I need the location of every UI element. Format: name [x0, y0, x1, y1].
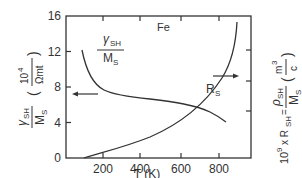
- y-tick-16: 16: [48, 9, 62, 23]
- svg-text:(: (: [279, 77, 295, 82]
- svg-text:): ): [25, 51, 41, 56]
- svg-text:): ): [279, 52, 295, 57]
- svg-text:γ: γ: [103, 32, 110, 46]
- right-axis-ticks: [246, 50, 251, 111]
- chart-canvas: 16 12 8 4 0 200 400 600 800 T (K) Fe γ S…: [0, 0, 302, 178]
- x-tick-600: 600: [171, 162, 191, 176]
- svg-text:m: m: [273, 66, 284, 74]
- svg-text:S: S: [113, 58, 118, 67]
- svg-text:SH: SH: [22, 108, 31, 119]
- y-tick-8: 8: [54, 80, 61, 94]
- svg-text:Ωmt: Ωmt: [34, 65, 45, 84]
- left-y-axis-label: γ SH M S ( 10 4 Ωmt ): [15, 51, 49, 128]
- svg-text:10: 10: [278, 152, 290, 164]
- svg-text:S: S: [294, 90, 302, 95]
- right-arrow-icon: [213, 74, 239, 79]
- svg-text:(: (: [25, 91, 41, 96]
- svg-text:9: 9: [275, 147, 284, 152]
- bottom-axis-ticks: [103, 153, 219, 158]
- svg-text:S: S: [40, 110, 49, 115]
- right-y-axis-label: 10 9 x R SH = ρ SH M S ( m 3 c ): [269, 52, 302, 164]
- svg-text:SH: SH: [284, 116, 293, 127]
- svg-text:x R: x R: [279, 130, 290, 145]
- gamma-curve-label: γ SH M S: [97, 32, 124, 67]
- svg-text:10: 10: [19, 72, 30, 84]
- svg-text:4: 4: [16, 67, 25, 72]
- svg-text:M: M: [33, 115, 47, 125]
- svg-text:3: 3: [270, 60, 279, 65]
- svg-text:ρ: ρ: [269, 99, 283, 107]
- svg-text:c: c: [288, 66, 299, 71]
- svg-text:S: S: [215, 89, 220, 98]
- y-tick-4: 4: [54, 116, 61, 130]
- x-tick-800: 800: [209, 162, 229, 176]
- svg-text:R: R: [206, 82, 215, 96]
- svg-text:M: M: [287, 95, 301, 105]
- svg-text:SH: SH: [110, 39, 121, 48]
- left-arrow-icon: [72, 92, 98, 97]
- svg-text:=: =: [279, 109, 290, 115]
- svg-text:γ: γ: [15, 119, 29, 126]
- x-tick-200: 200: [93, 162, 113, 176]
- svg-text:M: M: [103, 51, 113, 65]
- material-label: Fe: [157, 21, 170, 33]
- x-axis-label: T (K): [134, 167, 160, 178]
- left-axis-ticks: [66, 52, 71, 123]
- y-tick-12: 12: [48, 45, 62, 59]
- svg-text:SH: SH: [276, 88, 285, 99]
- plot-frame: [66, 16, 251, 158]
- y-tick-0: 0: [54, 151, 61, 165]
